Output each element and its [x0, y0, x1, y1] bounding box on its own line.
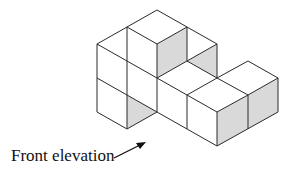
shaded-face-tall-column — [157, 27, 187, 78]
shaded-face-step — [187, 44, 217, 78]
arrow-head-icon — [136, 142, 146, 149]
front-elevation-arrow — [114, 142, 146, 158]
front-elevation-label: Front elevation — [11, 146, 114, 166]
shaded-face-right-cube-b — [248, 78, 278, 129]
shaded-face-bottom-left — [127, 95, 157, 129]
shaded-face-right-cube-a — [217, 95, 248, 146]
